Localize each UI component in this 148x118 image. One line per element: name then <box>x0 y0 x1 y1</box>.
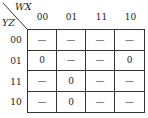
kmap-cell: — <box>115 30 144 51</box>
kmap-cell: — <box>57 51 86 72</box>
kmap-cell: 0 <box>57 92 86 113</box>
kmap-cell: — <box>86 71 115 92</box>
kmap-cell: — <box>115 71 144 92</box>
kmap-cell: — <box>86 92 115 113</box>
row-header: 10 <box>7 97 25 107</box>
column-header: 00 <box>28 12 57 22</box>
kmap-grid: — — — — 0 — — 0 — 0 — — — 0 — — <box>27 29 145 113</box>
kmap-cell: — <box>115 92 144 113</box>
kmap-cell: — <box>28 71 57 92</box>
row-variable-label: YZ <box>2 18 15 28</box>
kmap-cell: 0 <box>115 51 144 72</box>
column-header: 11 <box>87 12 116 22</box>
column-header: 01 <box>57 12 86 22</box>
kmap-cell: — <box>86 30 115 51</box>
kmap-cell: — <box>28 92 57 113</box>
karnaugh-map: WX YZ 00 01 11 10 00 01 11 10 — — — — 0 … <box>0 0 148 118</box>
column-variable-label: WX <box>15 2 32 12</box>
kmap-cell: — <box>57 30 86 51</box>
kmap-cell: 0 <box>57 71 86 92</box>
kmap-cell: 0 <box>28 51 57 72</box>
column-header: 10 <box>116 12 145 22</box>
row-header: 01 <box>7 56 25 66</box>
kmap-cell: — <box>86 51 115 72</box>
row-header: 00 <box>7 35 25 45</box>
row-header: 11 <box>7 77 25 87</box>
kmap-cell: — <box>28 30 57 51</box>
